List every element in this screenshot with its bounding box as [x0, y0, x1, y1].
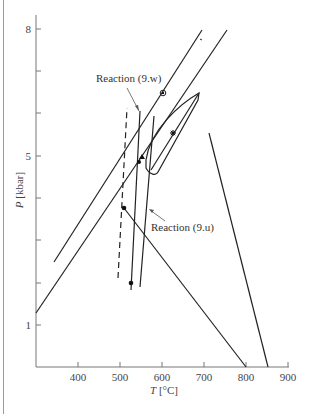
reaction-9u-label: Reaction (9.u) — [151, 221, 214, 234]
x-tick-900: 900 — [280, 371, 297, 383]
x-tick-labels: 400 500 600 700 800 900 — [70, 371, 297, 383]
svg-text:P [kbar]: P [kbar] — [13, 172, 25, 209]
lower-end-marker — [129, 281, 134, 286]
y-tick-5: 5 — [26, 150, 32, 162]
markers — [122, 90, 176, 285]
y-tick-labels: 8 5 1 — [26, 23, 32, 331]
triangle-marker — [139, 154, 145, 159]
x-tick-500: 500 — [112, 371, 129, 383]
x-tick-400: 400 — [70, 371, 87, 383]
y-tick-1: 1 — [26, 319, 32, 331]
reaction-9w-label: Reaction (9.w) — [96, 72, 162, 85]
x-tick-700: 700 — [196, 371, 213, 383]
x-axis-title: T [°C] — [150, 384, 178, 396]
intersection-marker — [137, 160, 141, 164]
axes — [36, 15, 289, 367]
reaction-line-dashed — [118, 108, 127, 278]
line-end-tick — [200, 39, 202, 40]
invariant-point-marker — [122, 206, 127, 211]
reaction-line-to-850 — [209, 133, 268, 367]
x-tick-800: 800 — [238, 371, 255, 383]
reaction-9w-line — [131, 111, 140, 290]
annotation-reaction-9u: Reaction (9.u) — [149, 209, 214, 234]
y-axis-title: P [kbar] — [13, 172, 25, 209]
annotation-reaction-9w: Reaction (9.w) — [96, 72, 162, 111]
x-tick-600: 600 — [154, 371, 171, 383]
star-marker — [170, 130, 176, 136]
phase-diagram: 8 5 1 400 500 600 700 800 900 T [°C] P [… — [0, 0, 317, 414]
y-tick-8: 8 — [26, 23, 32, 35]
